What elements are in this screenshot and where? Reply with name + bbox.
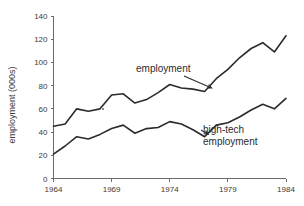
print-speck <box>102 108 104 110</box>
annotation-employment-label: employment <box>136 63 191 74</box>
y-tick-label: 20 <box>39 151 48 160</box>
x-tick-label: 1969 <box>103 185 121 194</box>
annotation-high-tech-label-line1: high-tech <box>203 124 244 135</box>
x-tick-label: 1979 <box>219 185 237 194</box>
annotation-high-tech-label-line2: employment <box>203 136 258 147</box>
y-tick-label: 100 <box>34 58 48 67</box>
y-tick-label: 80 <box>39 82 48 91</box>
y-axis-title: employment (000s) <box>7 66 17 143</box>
line-chart: employment (000s) 020406080100120140 196… <box>0 0 304 206</box>
y-tick-label: 120 <box>34 35 48 44</box>
y-tick-label: 0 <box>43 175 48 184</box>
y-tick-label: 140 <box>34 12 48 21</box>
x-tick-label: 1964 <box>45 185 63 194</box>
y-tick-label: 60 <box>39 105 48 114</box>
x-tick-label: 1984 <box>277 185 295 194</box>
x-tick-label: 1974 <box>161 185 179 194</box>
chart-figure: employment (000s) 020406080100120140 196… <box>0 0 304 206</box>
y-tick-label: 40 <box>39 128 48 137</box>
